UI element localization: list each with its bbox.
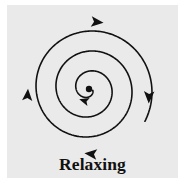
spiral-center-dot (86, 86, 92, 92)
right-arrowhead (143, 91, 154, 104)
left-arrowhead (22, 88, 33, 101)
top-arrowhead (91, 16, 104, 28)
figure-caption-relaxing: Relaxing (0, 155, 185, 173)
figure-root: Relaxing (0, 0, 185, 194)
spiral-curve (36, 31, 152, 137)
spiral-path-group (36, 31, 152, 137)
